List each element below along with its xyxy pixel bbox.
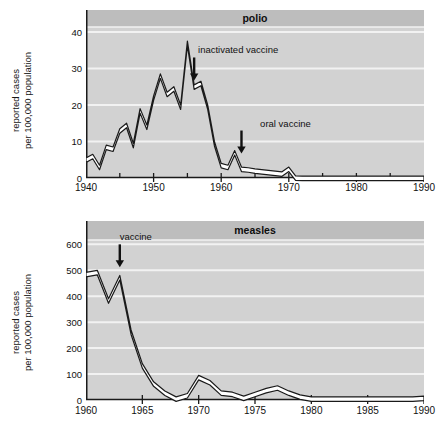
- measles-chart-title: measles: [234, 224, 275, 236]
- polio-chart-panel: reported cases per 100,000 population 01…: [0, 0, 442, 200]
- measles-x-tick-1970: 1970: [188, 405, 210, 416]
- measles-x-tick-1980: 1980: [300, 405, 322, 416]
- measles-y-axis-title-line1: reported cases: [11, 274, 23, 371]
- polio-y-tick-20: 20: [71, 99, 82, 110]
- vaccination-impact-figure: reported cases per 100,000 population 01…: [0, 0, 442, 433]
- measles-y-tick-500: 500: [66, 265, 82, 276]
- polio-y-axis-title-line2: per 100,000 population: [22, 51, 34, 148]
- measles-chart-panel: reported cases per 100,000 population 01…: [0, 212, 442, 433]
- polio-annotation-inactivated-vaccine: inactivated vaccine: [198, 44, 278, 55]
- polio-y-tick-40: 40: [71, 26, 82, 37]
- polio-x-tick-1940: 1940: [75, 182, 97, 193]
- measles-x-tick-1990: 1990: [413, 405, 435, 416]
- measles-y-axis-title: reported cases per 100,000 population: [0, 212, 44, 433]
- measles-y-tick-300: 300: [66, 317, 82, 328]
- polio-x-tick-labels: 194019501960197019801990: [0, 182, 442, 198]
- measles-y-axis-title-line2: per 100,000 population: [22, 274, 34, 371]
- polio-x-tick-1960: 1960: [210, 182, 232, 193]
- polio-y-tick-30: 30: [71, 63, 82, 74]
- polio-plot-area: [86, 10, 424, 182]
- polio-x-tick-1990: 1990: [413, 182, 435, 193]
- polio-x-tick-1970: 1970: [278, 182, 300, 193]
- measles-annotation-vaccine: vaccine: [120, 231, 152, 242]
- polio-y-axis-title: reported cases per 100,000 population: [0, 0, 44, 200]
- polio-y-tick-10: 10: [71, 136, 82, 147]
- measles-y-tick-400: 400: [66, 291, 82, 302]
- polio-chart-title: polio: [242, 12, 267, 24]
- measles-x-tick-1985: 1985: [357, 405, 379, 416]
- measles-y-tick-100: 100: [66, 369, 82, 380]
- measles-y-tick-0: 0: [77, 395, 82, 406]
- measles-x-tick-1965: 1965: [131, 405, 153, 416]
- polio-annotation-oral-vaccine: oral vaccine: [260, 118, 311, 129]
- measles-y-tick-600: 600: [66, 239, 82, 250]
- measles-y-tick-200: 200: [66, 343, 82, 354]
- polio-x-tick-1950: 1950: [142, 182, 164, 193]
- measles-x-tick-1960: 1960: [75, 405, 97, 416]
- polio-y-axis-title-line1: reported cases: [11, 51, 23, 148]
- polio-y-tick-0: 0: [77, 173, 82, 184]
- measles-plot-area: [86, 221, 424, 404]
- measles-x-tick-1975: 1975: [244, 405, 266, 416]
- polio-x-tick-1980: 1980: [345, 182, 367, 193]
- measles-x-tick-labels: 1960196519701975198019851990: [0, 405, 442, 421]
